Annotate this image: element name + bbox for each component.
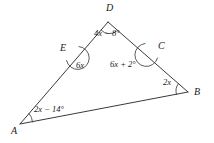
vertex-label-E: E — [60, 43, 66, 53]
segment-DB — [108, 22, 188, 92]
angle-label-E: 6x — [76, 61, 84, 70]
vertex-label-C: C — [158, 41, 165, 51]
angle-label-C: 6x + 2° — [110, 60, 136, 69]
vertex-label-A: A — [11, 126, 17, 136]
angle-arc-A — [29, 114, 33, 123]
angle-label-D: 4x − 8° — [94, 29, 120, 38]
angle-label-B: 2x — [163, 78, 171, 87]
angle-arc-B — [176, 84, 179, 95]
vertex-label-D: D — [106, 3, 113, 13]
geometry-figure: D A B E C 4x − 8° 6x 6x + 2° 2x 2x − 14° — [0, 0, 214, 143]
vertex-label-B: B — [194, 87, 200, 97]
angle-label-A: 2x − 14° — [34, 105, 64, 114]
geometry-canvas — [0, 0, 214, 143]
